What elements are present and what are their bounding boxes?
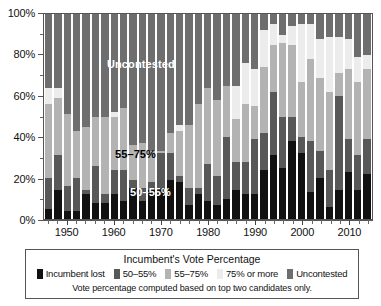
bar-segment: [204, 201, 211, 219]
bar-column: [212, 14, 221, 219]
plot-area: Uncontested55–75%50–55%: [43, 13, 373, 220]
bar-segment: [251, 194, 258, 219]
bar-column: [287, 14, 296, 219]
x-tick-label: 1990: [243, 226, 267, 238]
bar-segment: [363, 55, 370, 69]
bar-segment: [242, 162, 249, 195]
x-tick-minor: [133, 220, 134, 224]
bar-segment: [204, 164, 211, 201]
bar-segment: [279, 14, 286, 34]
bar-segment: [232, 119, 239, 162]
bar-segment: [185, 125, 192, 189]
legend-label: Incumbent lost: [46, 268, 105, 279]
bar-column: [334, 14, 343, 219]
bar-segment: [64, 14, 71, 114]
x-tick-minor: [236, 220, 237, 224]
bar-segment: [223, 86, 230, 137]
bar-segment: [176, 131, 183, 176]
legend-items: Incumbent lost50–55%55–75%75% or moreUnc…: [26, 268, 358, 279]
bar-segment: [326, 92, 333, 170]
bar-segment: [326, 37, 333, 92]
bar-segment: [185, 205, 192, 219]
bar-segment: [326, 170, 333, 207]
bar-segment: [251, 69, 258, 106]
x-tick-minor: [265, 220, 266, 224]
bar-column: [231, 14, 240, 219]
bar-column: [175, 14, 184, 219]
bar-segment: [354, 14, 361, 57]
bar-segment: [195, 194, 202, 219]
bar-segment: [82, 14, 89, 127]
x-tick-minor: [151, 220, 152, 224]
bar-column: [63, 14, 72, 219]
bar-segment: [129, 14, 136, 145]
x-tick-label: 1960: [102, 226, 126, 238]
bar-column: [110, 14, 119, 219]
x-tick-minor: [283, 220, 284, 224]
bar-segment: [260, 67, 267, 133]
y-tick-label: 40%: [14, 131, 35, 143]
bar-segment: [45, 14, 52, 88]
bar-segment: [335, 37, 342, 74]
bar-column: [297, 14, 306, 219]
bar-segment: [54, 190, 61, 219]
x-tick-minor: [170, 220, 171, 224]
bar-segment: [288, 14, 295, 26]
bar-segment: [92, 117, 99, 166]
y-axis: 0%20%40%60%80%100%: [0, 13, 43, 220]
bar-segment: [185, 188, 192, 204]
bar-segment: [354, 57, 361, 82]
legend-label: 55–75%: [174, 268, 208, 279]
bar-segment: [64, 114, 71, 186]
bar-segment: [167, 133, 174, 153]
x-tick-minor: [321, 220, 322, 224]
bar-segment: [307, 24, 314, 59]
x-tick-major: [161, 220, 162, 225]
x-tick-label: 1970: [149, 226, 173, 238]
x-tick-minor: [189, 220, 190, 224]
x-tick-minor: [76, 220, 77, 224]
bar-column: [241, 14, 250, 219]
stacked-bars: [44, 14, 372, 219]
x-tick-minor: [142, 220, 143, 224]
bar-segment: [288, 141, 295, 219]
bar-segment: [298, 137, 305, 153]
x-tick-major: [208, 220, 209, 225]
bar-segment: [270, 14, 277, 24]
bar-segment: [213, 14, 220, 100]
chart-figure: 0%20%40%60%80%100% Uncontested55–75%50–5…: [0, 0, 381, 306]
bar-segment: [335, 190, 342, 219]
bar-column: [306, 14, 315, 219]
x-tick-minor: [85, 220, 86, 224]
bar-column: [203, 14, 212, 219]
bar-segment: [242, 14, 249, 63]
x-tick-label: 1950: [55, 226, 79, 238]
x-tick-major: [67, 220, 68, 225]
bar-segment: [45, 104, 52, 178]
bar-segment: [120, 201, 127, 219]
bar-segment: [139, 14, 146, 143]
bar-segment: [251, 14, 258, 69]
bar-segment: [139, 201, 146, 219]
bar-segment: [213, 100, 220, 176]
x-tick-major: [302, 220, 303, 225]
x-tick-minor: [57, 220, 58, 224]
bar-segment: [242, 104, 249, 161]
bar-column: [91, 14, 100, 219]
bar-segment: [101, 117, 108, 195]
bar-segment: [345, 69, 352, 139]
bar-segment: [288, 26, 295, 44]
x-tick-minor: [293, 220, 294, 224]
x-tick-minor: [217, 220, 218, 224]
bar-column: [100, 14, 109, 219]
bar-segment: [92, 14, 99, 117]
bar-segment: [82, 194, 89, 219]
legend-title: Incumbent's Vote Percentage: [26, 253, 358, 265]
plot-annotation: 55–75%: [115, 148, 156, 160]
x-tick-minor: [104, 220, 105, 224]
bar-segment: [45, 88, 52, 104]
bar-column: [344, 14, 353, 219]
bar-segment: [176, 182, 183, 219]
bar-segment: [223, 14, 230, 86]
bar-segment: [363, 174, 370, 219]
